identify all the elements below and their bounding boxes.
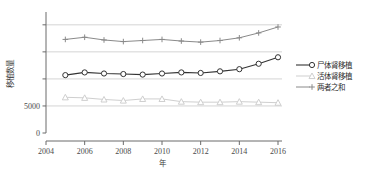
series-line <box>65 97 278 102</box>
data-point-marker <box>63 73 68 78</box>
y-tick-label: 0 <box>36 129 40 138</box>
x-axis-title: 年 <box>159 158 167 168</box>
data-point-marker <box>309 62 314 67</box>
series-line <box>65 57 278 75</box>
legend-label-3: 两者之和 <box>317 82 345 92</box>
data-point-marker <box>275 55 280 60</box>
data-point-marker <box>82 70 87 75</box>
x-tick-label: 2008 <box>115 147 131 156</box>
y-axis-title: 移植数量 <box>5 59 15 88</box>
legend-label-1: 尸体肾移植 <box>317 60 353 70</box>
x-tick-label: 2006 <box>77 147 93 156</box>
data-point-marker <box>237 67 242 72</box>
data-point-marker <box>159 71 164 76</box>
y-tick-label: 5000 <box>24 102 40 111</box>
x-tick-label: 2010 <box>154 147 170 156</box>
x-tick-label: 2004 <box>38 147 54 156</box>
chart-container: 05000移植数量2004200620082010201220142016年尸体… <box>0 0 371 176</box>
data-point-marker <box>121 71 126 76</box>
data-point-marker <box>101 71 106 76</box>
data-point-marker <box>140 72 145 77</box>
data-point-marker <box>217 69 222 74</box>
x-tick-label: 2012 <box>193 147 209 156</box>
line-chart: 05000移植数量2004200620082010201220142016年尸体… <box>0 0 371 176</box>
data-point-marker <box>179 70 184 75</box>
x-tick-label: 2016 <box>270 147 286 156</box>
legend-label-2: 活体肾移植 <box>317 71 353 81</box>
series-line <box>65 27 278 42</box>
data-point-marker <box>256 61 261 66</box>
data-point-marker <box>198 70 203 75</box>
x-tick-label: 2014 <box>231 147 247 156</box>
